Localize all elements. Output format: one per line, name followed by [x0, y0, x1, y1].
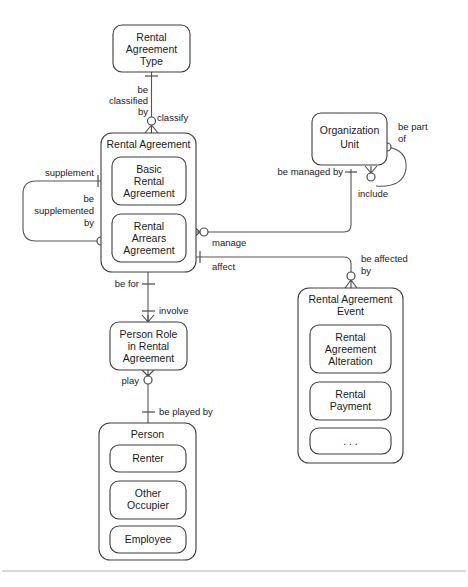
- label-be-managed-by: be managed by: [278, 166, 344, 177]
- rental-agreement-type-line2: Agreement: [126, 43, 177, 55]
- entity-basic-rental-agreement[interactable]: Basic Rental Agreement: [112, 157, 186, 205]
- label-by-3: by: [361, 265, 371, 276]
- basic-rental-agreement-line1: Basic: [136, 163, 162, 175]
- entity-rental-agreement-alteration[interactable]: Rental Agreement Alteration: [310, 325, 391, 373]
- rental-arrears-agreement-line2: Arrears: [132, 232, 166, 244]
- classify-optional-circle: [148, 117, 156, 125]
- label-supplemented: supplemented: [34, 205, 94, 216]
- rental-agreement-alteration-line2: Agreement: [325, 343, 376, 355]
- erd-canvas: be classified by classify supplement be …: [0, 0, 468, 587]
- relationship-involve[interactable]: be for involve: [115, 272, 189, 322]
- entity-relationship-diagram: be classified by classify supplement be …: [0, 0, 468, 587]
- basic-rental-agreement-line3: Agreement: [123, 187, 174, 199]
- rental-agreement-event-line1: Rental Agreement: [308, 293, 392, 305]
- person-role-line1: Person Role: [120, 328, 178, 340]
- relationship-supplement[interactable]: supplement be supplemented by: [23, 167, 105, 245]
- involve-crowsfoot: [142, 315, 154, 322]
- label-manage: manage: [212, 237, 246, 248]
- rental-agreement-event-line2: Event: [337, 305, 364, 317]
- rental-arrears-agreement-line3: Agreement: [123, 244, 174, 256]
- rental-agreement-type-line3: Type: [140, 55, 163, 67]
- label-be: be: [137, 84, 148, 95]
- entity-person[interactable]: Person Renter Other Occupier Employee: [99, 423, 196, 560]
- entity-person-role-in-rental-agreement[interactable]: Person Role in Rental Agreement: [110, 322, 187, 370]
- affect-crowsfoot: [345, 280, 357, 288]
- classify-crowsfoot: [145, 125, 158, 133]
- label-play: play: [122, 375, 140, 386]
- basic-rental-agreement-line2: Rental: [134, 175, 164, 187]
- label-be-for: be for: [115, 278, 139, 289]
- label-classified: classified: [109, 95, 148, 106]
- organization-unit-line1: Organization: [320, 124, 380, 136]
- play-optional-circle: [144, 376, 152, 384]
- rental-agreement-title: Rental Agreement: [106, 138, 190, 150]
- label-be-part: be part: [398, 121, 428, 132]
- entity-renter[interactable]: Renter: [110, 445, 186, 472]
- label-by-2: by: [84, 217, 94, 228]
- rental-payment-line1: Rental: [335, 388, 365, 400]
- entity-rental-agreement-type[interactable]: Rental Agreement Type: [113, 25, 190, 72]
- label-include: include: [358, 188, 388, 199]
- entity-other-occupier[interactable]: Other Occupier: [110, 481, 186, 519]
- person-title: Person: [131, 428, 164, 440]
- rental-agreement-type-line1: Rental: [136, 31, 166, 43]
- relationship-affect[interactable]: affect be affected by: [196, 251, 408, 288]
- entity-rental-payment[interactable]: Rental Payment: [310, 382, 391, 420]
- label-be-affected: be affected: [361, 253, 408, 264]
- label-of: of: [398, 133, 406, 144]
- manage-optional-circle: [200, 228, 208, 236]
- entity-rental-arrears-agreement[interactable]: Rental Arrears Agreement: [112, 214, 186, 262]
- entity-employee[interactable]: Employee: [110, 526, 186, 553]
- person-role-line3: Agreement: [123, 352, 174, 364]
- rental-agreement-alteration-line1: Rental: [335, 331, 365, 343]
- entity-organization-unit[interactable]: Organization Unit: [312, 113, 387, 165]
- ellipsis-placeholder-label: . . .: [343, 435, 358, 447]
- employee-label: Employee: [125, 533, 172, 545]
- label-involve: involve: [159, 305, 189, 316]
- include-optional-circle: [367, 173, 375, 181]
- entity-rental-agreement[interactable]: Rental Agreement Basic Rental Agreement …: [101, 133, 196, 272]
- entity-ellipsis-placeholder[interactable]: . . .: [310, 428, 391, 454]
- play-crowsfoot: [142, 370, 154, 376]
- entity-rental-agreement-event[interactable]: Rental Agreement Event Rental Agreement …: [298, 288, 403, 463]
- label-classify: classify: [157, 112, 188, 123]
- include-crowsfoot: [365, 166, 377, 173]
- renter-label: Renter: [132, 452, 164, 464]
- label-affect: affect: [212, 261, 235, 272]
- label-be-played-by: be played by: [159, 406, 213, 417]
- rental-payment-line2: Payment: [330, 400, 372, 412]
- relationship-play[interactable]: play be played by: [122, 370, 214, 423]
- label-be-2: be: [83, 193, 94, 204]
- relationship-manage[interactable]: manage be managed by: [193, 166, 357, 248]
- rental-agreement-alteration-line3: Alteration: [328, 355, 373, 367]
- organization-unit-line2: Unit: [340, 138, 359, 150]
- person-role-line2: in Rental: [128, 340, 169, 352]
- label-supplement: supplement: [45, 167, 94, 178]
- other-occupier-line2: Occupier: [127, 499, 170, 511]
- affect-optional-circle: [347, 272, 355, 280]
- relationship-classify[interactable]: be classified by classify: [109, 72, 188, 133]
- other-occupier-line1: Other: [135, 487, 162, 499]
- rental-arrears-agreement-line1: Rental: [134, 220, 164, 232]
- label-by: by: [138, 106, 148, 117]
- manage-line: [204, 169, 351, 232]
